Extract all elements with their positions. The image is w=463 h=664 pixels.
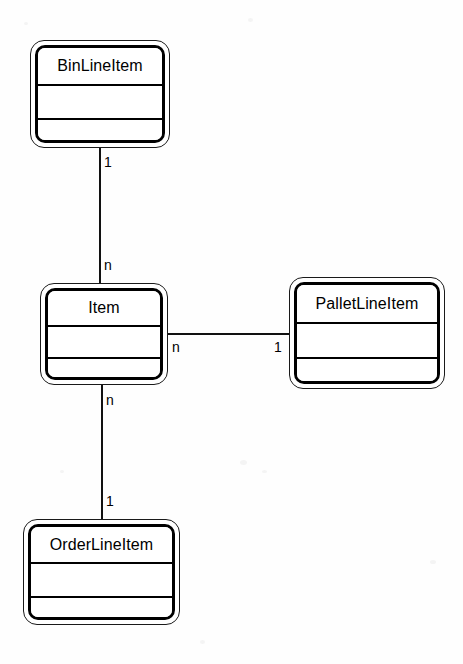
class-box-item[interactable]: Item <box>40 283 168 385</box>
scan-speck <box>24 22 28 25</box>
scan-speck <box>248 18 253 22</box>
class-attributes-compartment <box>38 86 162 120</box>
class-operations-compartment <box>48 359 160 377</box>
class-operations-compartment <box>38 120 162 140</box>
scan-speck <box>200 640 205 644</box>
class-box-frame: PalletLineItem <box>294 282 440 384</box>
multiplicity-label-item-end-upper: n <box>104 258 112 272</box>
class-name-label: Item <box>88 300 120 316</box>
class-name-label: PalletLineItem <box>316 296 419 312</box>
scan-speck <box>60 470 64 473</box>
class-operations-compartment <box>297 359 437 381</box>
scan-speck <box>262 470 267 473</box>
association-line-bin-line-item-item[interactable] <box>99 148 101 283</box>
multiplicity-label-order-line-item-end: 1 <box>106 494 114 508</box>
class-title-compartment: PalletLineItem <box>297 285 437 324</box>
class-box-frame: OrderLineItem <box>28 524 175 620</box>
association-line-item-order-line-item[interactable] <box>101 385 103 519</box>
multiplicity-label-pallet-line-item-end: 1 <box>274 340 282 354</box>
class-title-compartment: Item <box>48 291 160 327</box>
association-line-item-pallet-line-item[interactable] <box>168 333 289 335</box>
class-operations-compartment <box>31 598 172 617</box>
class-title-compartment: OrderLineItem <box>31 527 172 564</box>
uml-class-diagram-canvas: BinLineItem Item PalletLineItem <box>0 0 463 664</box>
class-name-label: OrderLineItem <box>50 537 154 553</box>
class-attributes-compartment <box>48 327 160 359</box>
class-box-frame: BinLineItem <box>35 45 165 143</box>
class-box-order-line-item[interactable]: OrderLineItem <box>23 519 180 625</box>
class-box-frame: Item <box>45 288 163 380</box>
scan-speck <box>240 460 247 465</box>
multiplicity-label-bin-line-item-end: 1 <box>104 155 112 169</box>
multiplicity-label-item-end-right: n <box>172 340 180 354</box>
class-name-label: BinLineItem <box>57 58 143 74</box>
class-box-pallet-line-item[interactable]: PalletLineItem <box>289 277 445 389</box>
class-title-compartment: BinLineItem <box>38 48 162 86</box>
class-box-bin-line-item[interactable]: BinLineItem <box>30 40 170 148</box>
multiplicity-label-item-end-lower: n <box>106 393 114 407</box>
class-attributes-compartment <box>297 324 437 359</box>
scan-speck <box>430 560 436 564</box>
class-attributes-compartment <box>31 564 172 598</box>
